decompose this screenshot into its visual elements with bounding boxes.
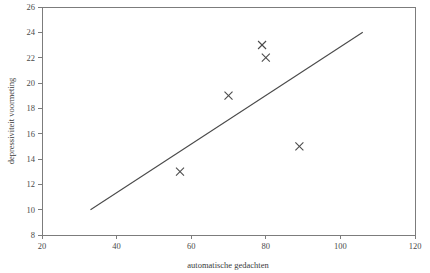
y-tick-label: 12 — [27, 179, 36, 189]
y-tick-label: 18 — [27, 103, 36, 113]
x-tick-label: 80 — [262, 241, 271, 251]
y-tick-label: 20 — [27, 78, 36, 88]
x-tick-label: 20 — [38, 241, 47, 251]
y-tick-label: 10 — [27, 205, 36, 215]
x-tick-label: 120 — [409, 241, 422, 251]
x-tick-label: 40 — [112, 241, 121, 251]
y-tick-label: 22 — [27, 53, 36, 63]
y-axis-title: depressiviteit voormeting — [6, 77, 16, 164]
y-tick-label: 16 — [27, 129, 36, 139]
chart-background — [0, 0, 430, 273]
y-tick-label: 8 — [31, 230, 35, 240]
y-tick-label: 26 — [27, 2, 36, 12]
x-tick-label: 60 — [187, 241, 196, 251]
chart-canvas: 8101214161820222426 20406080100120 autom… — [0, 0, 430, 273]
x-tick-label: 100 — [334, 241, 347, 251]
y-tick-label: 14 — [27, 154, 36, 164]
x-axis-title: automatische gedachten — [187, 260, 269, 270]
y-tick-label: 24 — [27, 27, 36, 37]
scatter-chart: 8101214161820222426 20406080100120 autom… — [0, 0, 430, 273]
